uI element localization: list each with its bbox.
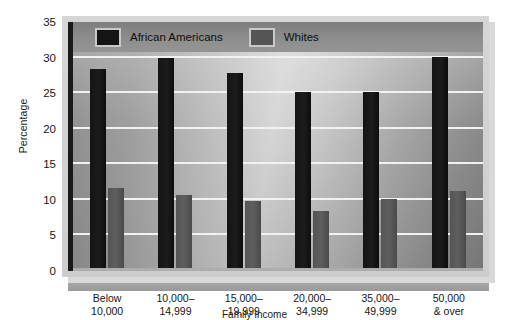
bar xyxy=(432,57,448,271)
bar xyxy=(158,58,174,271)
bar-group xyxy=(73,22,141,271)
bars-layer xyxy=(73,22,483,271)
y-tick-label: 10 xyxy=(22,194,56,206)
bar-group xyxy=(210,22,278,271)
y-tick-label: 15 xyxy=(22,158,56,170)
bar-group xyxy=(415,22,483,271)
x-tick-label-line: 50,000 xyxy=(433,292,465,305)
y-tick-label: 20 xyxy=(22,123,56,135)
bar-group xyxy=(346,22,414,271)
bar xyxy=(381,199,397,271)
y-tick-label: 25 xyxy=(22,87,56,99)
x-tick-label-line: 20,000– xyxy=(293,292,331,305)
bar xyxy=(295,92,311,271)
plot-area: African AmericansWhites xyxy=(68,22,483,271)
x-axis-band xyxy=(68,283,489,291)
axis-baseline xyxy=(73,268,483,271)
y-tick-label: 35 xyxy=(22,16,56,28)
chart-figure: Percentage 05101520253035 African Americ… xyxy=(0,0,509,320)
x-tick-label-line: 10,000– xyxy=(157,292,195,305)
y-tick-label: 30 xyxy=(22,52,56,64)
x-axis-title: Family Income xyxy=(0,309,509,320)
bar xyxy=(450,191,466,271)
bar xyxy=(176,195,192,271)
bar-group xyxy=(141,22,209,271)
bar-group xyxy=(278,22,346,271)
bar xyxy=(90,69,106,271)
y-tick-label: 5 xyxy=(22,229,56,241)
bar xyxy=(363,92,379,271)
bar xyxy=(227,73,243,271)
x-tick-label-line: 15,000– xyxy=(225,292,263,305)
y-tick-label: 0 xyxy=(22,265,56,277)
x-tick-label-line: Below xyxy=(91,292,123,305)
x-tick-label-line: 35,000– xyxy=(362,292,400,305)
bar xyxy=(108,188,124,271)
plot-area-frame: African AmericansWhites xyxy=(62,16,489,277)
y-axis-tick-labels: 05101520253035 xyxy=(22,14,56,274)
bar xyxy=(313,211,329,271)
bar xyxy=(245,201,261,271)
